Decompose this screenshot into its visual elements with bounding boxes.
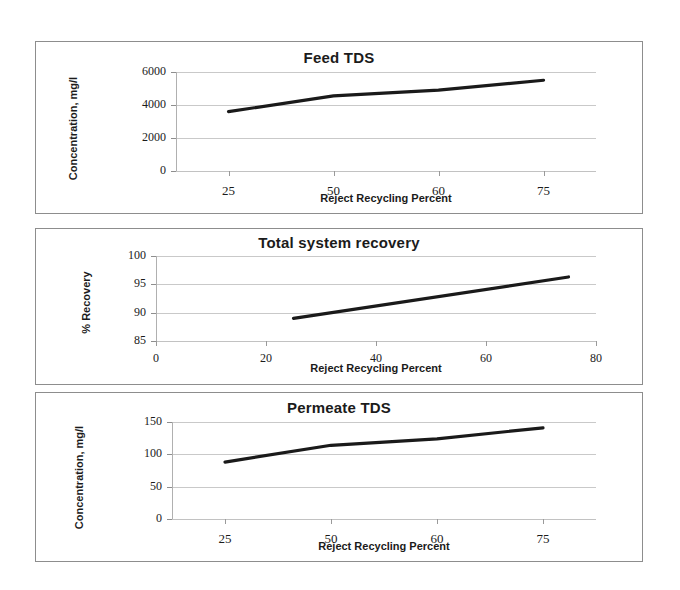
data-series-path — [229, 80, 544, 111]
chart-panel-permeate-tds: Permeate TDS Concentration, mg/l 0501001… — [35, 392, 643, 562]
y-tick-label: 50 — [116, 479, 162, 494]
data-series-path — [225, 428, 543, 462]
y-tick-label: 4000 — [120, 97, 166, 112]
y-axis-label-feed-tds: Concentration, mg/l — [67, 74, 80, 184]
x-tick-mark — [376, 341, 377, 346]
gridline — [176, 171, 596, 172]
x-tick-mark — [225, 519, 226, 524]
plot-area-permeate-tds: 05010015025506075 — [172, 422, 596, 519]
series-line-permeate-tds — [172, 422, 596, 519]
y-tick-label: 0 — [120, 163, 166, 178]
gridline — [172, 519, 596, 520]
y-axis-label-permeate-tds: Concentration, mg/l — [73, 423, 86, 533]
chart-panel-feed-tds: Feed TDS Concentration, mg/l 02000400060… — [35, 41, 643, 214]
x-tick-mark — [437, 519, 438, 524]
x-tick-mark — [486, 341, 487, 346]
y-tick-mark — [167, 519, 172, 520]
x-tick-mark — [229, 171, 230, 176]
x-tick-mark — [266, 341, 267, 346]
x-axis-label-permeate-tds: Reject Recycling Percent — [172, 540, 596, 552]
series-line-feed-tds — [176, 72, 596, 171]
y-tick-label: 0 — [116, 511, 162, 526]
y-tick-label: 100 — [116, 446, 162, 461]
plot-area-feed-tds: 020004000600025506075 — [176, 72, 596, 171]
data-series-path — [294, 277, 569, 318]
y-tick-label: 85 — [100, 333, 146, 348]
y-tick-label: 150 — [116, 414, 162, 429]
figure-page: Feed TDS Concentration, mg/l 02000400060… — [0, 0, 680, 590]
y-tick-mark — [171, 171, 176, 172]
y-tick-label: 95 — [100, 276, 146, 291]
plot-area-total-system-recovery: 859095100020406080 — [156, 256, 596, 341]
y-tick-label: 100 — [100, 248, 146, 263]
y-tick-label: 6000 — [120, 64, 166, 79]
chart-panel-total-system-recovery: Total system recovery % Recovery 8590951… — [35, 228, 643, 385]
x-tick-mark — [543, 519, 544, 524]
y-tick-label: 90 — [100, 305, 146, 320]
x-axis-label-feed-tds: Reject Recycling Percent — [176, 192, 596, 204]
x-tick-mark — [439, 171, 440, 176]
y-axis-label-total-system-recovery: % Recovery — [80, 258, 93, 348]
x-tick-mark — [331, 519, 332, 524]
x-tick-mark — [596, 341, 597, 346]
x-tick-mark — [156, 341, 157, 346]
series-line-total-system-recovery — [156, 256, 596, 341]
x-tick-mark — [544, 171, 545, 176]
x-tick-mark — [334, 171, 335, 176]
y-tick-label: 2000 — [120, 130, 166, 145]
x-axis-label-total-system-recovery: Reject Recycling Percent — [156, 362, 596, 374]
